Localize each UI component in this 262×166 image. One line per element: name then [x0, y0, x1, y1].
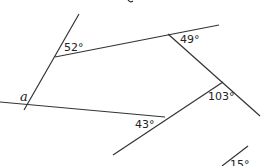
line-left-slant	[24, 14, 79, 110]
line-right	[168, 34, 260, 116]
partial-glyph-top	[128, 0, 133, 2]
angle-label-43: 43°	[135, 118, 155, 131]
line-lower-diagonal	[113, 82, 223, 155]
angle-label-15: 15°	[230, 158, 250, 166]
angle-label-103: 103°	[208, 90, 235, 103]
geometry-diagram: 52° 49° 103° 43° 15° a	[0, 0, 262, 166]
variable-label-a: a	[20, 89, 28, 104]
angle-label-49: 49°	[180, 33, 200, 46]
angle-label-52: 52°	[64, 41, 84, 54]
